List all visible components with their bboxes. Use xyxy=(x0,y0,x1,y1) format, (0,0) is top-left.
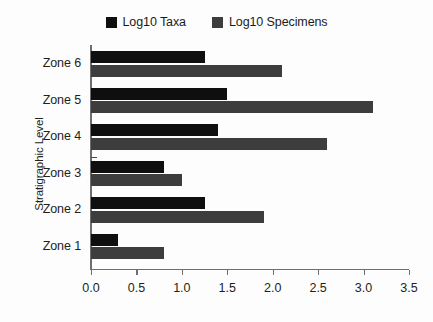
bar-taxa xyxy=(91,124,218,136)
bar-specimens xyxy=(91,174,182,186)
chart-legend: Log10 Taxa Log10 Specimens xyxy=(0,16,433,29)
bar-taxa xyxy=(91,88,227,100)
zone-group: Zone 3 xyxy=(91,161,409,187)
x-tick-mark xyxy=(136,270,137,275)
x-tick-mark xyxy=(409,270,410,275)
x-tick-label: 3.0 xyxy=(355,281,372,295)
bar-specimens xyxy=(91,101,373,113)
x-tick-mark xyxy=(318,270,319,275)
bar-taxa xyxy=(91,51,205,63)
x-tick-label: 3.5 xyxy=(400,281,417,295)
zone-group: Zone 1 xyxy=(91,234,409,260)
legend-swatch-taxa xyxy=(106,17,117,28)
y-tick-label: Zone 2 xyxy=(43,202,81,216)
bar-taxa xyxy=(91,197,205,209)
y-tick-label: Zone 3 xyxy=(43,166,81,180)
bar-chart: Log10 Taxa Log10 Specimens Stratigraphic… xyxy=(0,0,433,322)
bar-specimens xyxy=(91,247,164,259)
axis-tick-artifact xyxy=(91,157,97,158)
plot-area: 0.00.51.01.52.02.53.03.5 Zone 1Zone 2Zon… xyxy=(91,45,409,270)
zone-group: Zone 6 xyxy=(91,51,409,77)
y-tick-label: Zone 6 xyxy=(43,56,81,70)
bar-specimens xyxy=(91,211,264,223)
x-tick-label: 1.5 xyxy=(219,281,236,295)
x-tick-mark xyxy=(182,270,183,275)
legend-label-specimens: Log10 Specimens xyxy=(229,16,328,29)
x-tick-label: 0.5 xyxy=(128,281,145,295)
legend-entry-taxa: Log10 Taxa xyxy=(106,16,186,29)
bar-taxa xyxy=(91,234,118,246)
bar-taxa xyxy=(91,161,164,173)
x-tick-mark xyxy=(273,270,274,275)
x-tick-mark xyxy=(227,270,228,275)
y-tick-label: Zone 1 xyxy=(43,239,81,253)
x-tick-mark xyxy=(91,270,92,275)
bar-specimens xyxy=(91,65,282,77)
x-tick-mark xyxy=(364,270,365,275)
x-tick-label: 1.0 xyxy=(173,281,190,295)
legend-entry-specimens: Log10 Specimens xyxy=(212,16,328,29)
zone-group: Zone 4 xyxy=(91,124,409,150)
x-tick-label: 2.0 xyxy=(264,281,281,295)
x-tick-label: 0.0 xyxy=(82,281,99,295)
legend-swatch-specimens xyxy=(212,17,223,28)
zone-group: Zone 5 xyxy=(91,88,409,114)
bar-specimens xyxy=(91,138,327,150)
y-tick-label: Zone 4 xyxy=(43,129,81,143)
legend-label-taxa: Log10 Taxa xyxy=(123,16,186,29)
y-tick-label: Zone 5 xyxy=(43,93,81,107)
zone-group: Zone 2 xyxy=(91,197,409,223)
x-axis-line xyxy=(90,269,409,270)
x-tick-label: 2.5 xyxy=(309,281,326,295)
